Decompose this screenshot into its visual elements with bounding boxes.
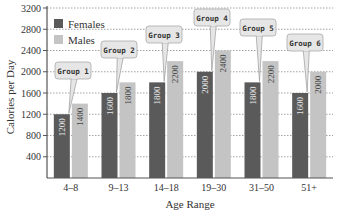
y-tick-label: 2400 [21,45,41,56]
bar-value-label: 1400 [75,107,85,126]
bar-chart: 1200140016001800180022002000240018002200… [0,0,338,212]
legend-label-males: Males [68,34,95,46]
gridlines [47,8,333,157]
x-tick-label: 4–8 [63,182,78,193]
legend: FemalesMales [54,18,105,46]
y-tick-labels: 400800120016002000240028003200 [21,3,41,163]
y-axis-title: Calories per Day [4,59,16,134]
callout-label: Group 3 [148,31,180,40]
bar-value-label: 1600 [295,97,305,116]
bar-value-label: 1600 [105,97,115,116]
bar-value-label: 1200 [57,118,67,137]
x-tick-label: 9–13 [109,182,129,193]
callout-label: Group 1 [57,67,89,76]
bar-value-label: 2000 [313,75,323,94]
bar-value-label: 2000 [200,75,210,94]
x-tick-label: 19–30 [201,182,226,193]
legend-swatch-females [54,19,63,28]
callout-label: Group 6 [289,39,321,48]
callout-pointer [256,35,262,81]
bar-value-label: 1800 [123,86,133,105]
callout-label: Group 4 [196,14,228,23]
callout-pointer [303,50,309,92]
y-tick-label: 2000 [21,66,41,77]
bar-value-label: 2200 [266,65,276,84]
legend-label-females: Females [68,18,105,30]
y-tick-label: 400 [26,151,41,162]
x-axis-title: Age Range [165,198,214,210]
y-tick-label: 2800 [21,24,41,35]
bar-value-label: 2200 [170,65,180,84]
callout-label: Group 5 [242,24,274,33]
y-tick-label: 1200 [21,109,41,120]
x-tick-label: 14–18 [154,182,179,193]
x-tick-labels: 4–89–1314–1819–3031–5051+ [63,182,317,193]
y-tick-label: 3200 [21,3,41,14]
y-tick-label: 1600 [21,88,41,99]
x-tick-label: 51+ [301,182,317,193]
legend-swatch-males [54,35,63,44]
bar-value-label: 2400 [218,54,228,73]
callout-label: Group 2 [103,46,135,55]
bar-value-label: 1800 [152,86,162,105]
x-tick-label: 31–50 [249,182,274,193]
bar-value-label: 1800 [248,86,258,105]
y-tick-label: 800 [26,130,41,141]
